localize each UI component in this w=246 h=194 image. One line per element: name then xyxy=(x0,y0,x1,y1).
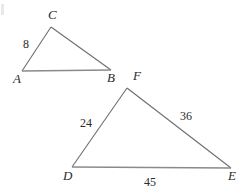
segment-fe xyxy=(127,88,231,168)
side-length-df: 24 xyxy=(80,117,92,129)
vertex-label-a: A xyxy=(13,72,21,85)
side-length-de: 45 xyxy=(144,176,156,188)
side-length-ac: 8 xyxy=(23,38,29,50)
triangle-abc-shape xyxy=(22,27,111,71)
segment-de xyxy=(72,167,231,168)
segment-cb xyxy=(51,27,111,70)
segment-ab xyxy=(22,70,111,71)
vertex-label-b: B xyxy=(107,71,115,84)
vertex-label-f: F xyxy=(133,69,141,82)
geometry-diagram: A B C D E F 8 24 36 45 xyxy=(0,0,246,194)
vertex-label-c: C xyxy=(48,8,57,21)
triangles-canvas xyxy=(0,0,246,194)
side-length-fe: 36 xyxy=(180,110,192,122)
vertex-label-e: E xyxy=(228,169,236,182)
vertex-label-d: D xyxy=(63,169,72,182)
triangle-def-shape xyxy=(72,88,231,168)
